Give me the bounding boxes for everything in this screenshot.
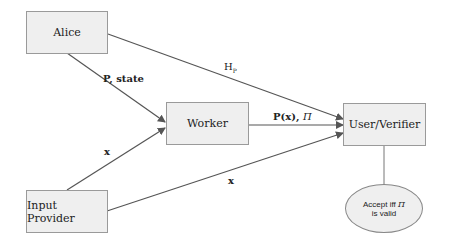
label-x-input-worker: x <box>104 146 110 157</box>
node-worker: Worker <box>166 102 249 145</box>
label-x-input-verifier: x <box>228 175 234 186</box>
decision-line2: is valid <box>372 209 396 218</box>
label-px-pi: P(x), Π <box>273 111 312 122</box>
edge-input-worker <box>67 128 165 190</box>
decision-ellipse: Accept iff Π is valid <box>345 184 423 233</box>
node-alice-label: Alice <box>53 26 81 39</box>
edge-alice-worker <box>67 53 165 122</box>
decision-line1: Accept iff Π <box>363 200 405 209</box>
node-worker-label: Worker <box>187 117 228 130</box>
label-hp: HP <box>224 61 237 74</box>
node-verifier-label: User/Verifier <box>349 118 421 131</box>
node-verifier: User/Verifier <box>343 103 426 146</box>
node-alice: Alice <box>26 11 108 54</box>
node-input-provider-label: Input Provider <box>27 199 107 225</box>
node-input-provider: Input Provider <box>26 190 108 233</box>
label-p-state: P, state <box>103 73 144 84</box>
